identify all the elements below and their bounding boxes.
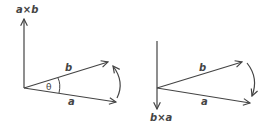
a-label-right: a: [201, 96, 208, 107]
theta-label: θ: [46, 82, 52, 92]
rotation-arrow-cw: [247, 63, 255, 96]
right-panel: b×a b a: [150, 41, 255, 123]
rotation-arrow-ccw: [113, 66, 120, 98]
axb-label: a×b: [16, 4, 38, 15]
cross-product-diagram: a×b b a θ b×a b a: [0, 0, 268, 127]
left-panel: a×b b a θ: [16, 4, 120, 107]
b-label-right: b: [199, 62, 206, 73]
bxa-label: b×a: [150, 112, 173, 123]
angle-arc: [58, 78, 60, 93]
b-label-left: b: [65, 62, 72, 73]
a-label-left: a: [68, 96, 75, 107]
